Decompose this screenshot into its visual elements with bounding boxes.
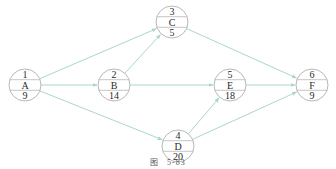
- node-number: 3: [170, 6, 175, 17]
- node-activity: F: [309, 80, 315, 91]
- node-number: 4: [176, 130, 181, 141]
- figure-caption: 图5-83: [150, 156, 194, 167]
- node-activity: D: [174, 141, 181, 152]
- edge-1-to-3: [40, 29, 157, 79]
- node-6: 6F9: [296, 69, 328, 101]
- edge-4-to-5: [188, 98, 219, 134]
- edge-4-to-6: [193, 92, 297, 139]
- edge-1-to-4: [40, 91, 162, 140]
- node-activity: E: [227, 80, 233, 91]
- nodes-layer: 1A92B143C54D205E186F9: [9, 6, 328, 162]
- node-3: 3C5: [156, 6, 188, 38]
- node-number: 5: [228, 69, 233, 80]
- node-duration: 18: [225, 90, 235, 101]
- caption-label: 图: [150, 158, 159, 167]
- node-number: 2: [112, 69, 117, 80]
- node-1: 1A9: [9, 69, 41, 101]
- node-activity: A: [21, 80, 29, 91]
- node-activity: C: [169, 17, 176, 28]
- node-number: 6: [310, 69, 315, 80]
- node-duration: 14: [109, 90, 119, 101]
- node-duration: 9: [310, 90, 315, 101]
- node-activity: B: [111, 80, 118, 91]
- network-diagram: 1A92B143C54D205E186F9: [0, 0, 336, 169]
- caption-number: 5-83: [167, 158, 186, 167]
- node-number: 1: [23, 69, 28, 80]
- node-2: 2B14: [98, 69, 130, 101]
- edges-layer: [40, 29, 297, 140]
- node-5: 5E18: [214, 69, 246, 101]
- edge-3-to-6: [187, 29, 297, 78]
- node-duration: 5: [170, 27, 175, 38]
- node-duration: 9: [23, 90, 28, 101]
